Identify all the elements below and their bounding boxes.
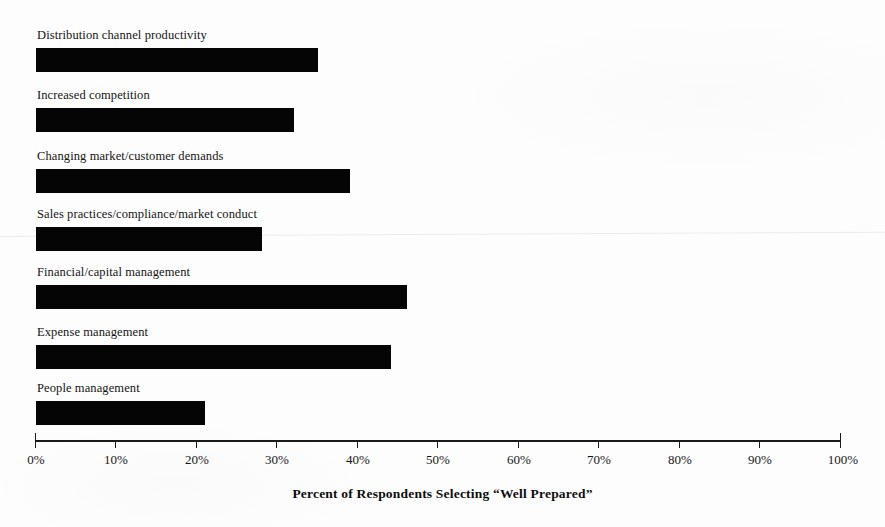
- plot-area: Distribution channel productivity Increa…: [0, 0, 885, 440]
- x-axis-tick-label: 40%: [346, 452, 370, 468]
- x-axis-tick: [357, 440, 358, 448]
- x-axis-tick-label: 20%: [185, 452, 209, 468]
- bar: [36, 108, 294, 132]
- horizontal-bar-chart: Distribution channel productivity Increa…: [0, 0, 885, 527]
- x-axis-tick-label: 30%: [265, 452, 289, 468]
- bar-category-label: Increased competition: [37, 88, 150, 102]
- x-axis-tick: [35, 440, 36, 448]
- x-axis-tick: [437, 440, 438, 448]
- x-axis-tick-label: 50%: [426, 452, 450, 468]
- bar: [36, 345, 391, 369]
- x-axis-tick-label: 70%: [587, 452, 611, 468]
- bar: [36, 169, 350, 193]
- bar-category-label: Distribution channel productivity: [37, 28, 207, 42]
- bar: [36, 285, 407, 309]
- bar-category-label: Expense management: [37, 325, 148, 339]
- x-axis-tick: [115, 440, 116, 448]
- x-axis-tick: [196, 440, 197, 448]
- x-axis-tick-label: 100%: [828, 452, 858, 468]
- bar: [36, 401, 205, 425]
- bar-category-label: Sales practices/compliance/market conduc…: [37, 207, 257, 221]
- x-axis-tick-label: 60%: [507, 452, 531, 468]
- bar-category-label: Financial/capital management: [37, 265, 190, 279]
- bar: [36, 227, 262, 251]
- x-axis-tick-label: 0%: [27, 452, 44, 468]
- x-axis-tick-label: 90%: [748, 452, 772, 468]
- x-axis-tick: [759, 440, 760, 448]
- x-axis-tick: [276, 440, 277, 448]
- x-axis-end-cap: [840, 433, 841, 440]
- x-axis-tick-label: 80%: [668, 452, 692, 468]
- x-axis-title: Percent of Respondents Selecting “Well P…: [0, 486, 885, 502]
- bar-category-label: Changing market/customer demands: [37, 149, 224, 163]
- x-axis-tick: [598, 440, 599, 448]
- bar: [36, 48, 318, 72]
- x-axis-start-cap: [35, 433, 36, 440]
- x-axis-tick: [518, 440, 519, 448]
- bar-category-label: People management: [37, 381, 140, 395]
- x-axis-tick: [840, 440, 841, 448]
- x-axis-tick-label: 10%: [104, 452, 128, 468]
- x-axis-tick: [679, 440, 680, 448]
